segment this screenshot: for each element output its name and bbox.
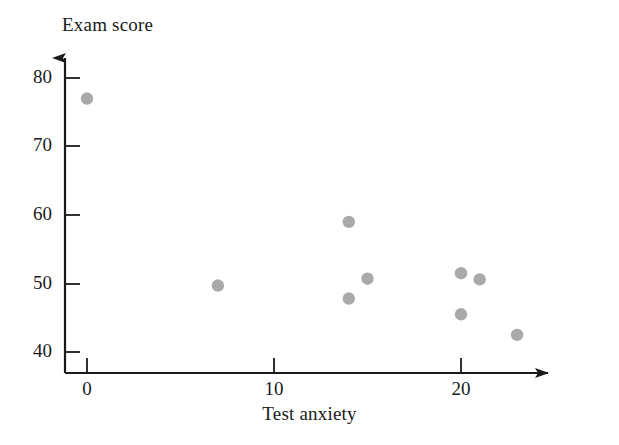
x-tick-label-10: 10: [254, 378, 294, 400]
data-point: [361, 273, 373, 285]
data-point: [455, 308, 467, 320]
x-axis-ticks: [87, 358, 461, 373]
axis-lines: [65, 58, 548, 373]
y-tick-label-50: 50: [6, 272, 52, 294]
data-point: [455, 267, 467, 279]
data-point: [212, 279, 224, 291]
y-tick-label-40: 40: [6, 340, 52, 362]
y-tick-label-60: 60: [6, 203, 52, 225]
x-tick-label-20: 20: [441, 378, 481, 400]
data-point: [511, 329, 523, 341]
data-point: [343, 292, 355, 304]
y-tick-label-70: 70: [6, 134, 52, 156]
data-point-group: [81, 92, 524, 341]
data-point: [474, 273, 486, 285]
x-tick-label-0: 0: [67, 378, 107, 400]
y-axis-ticks: [65, 78, 80, 352]
data-point: [343, 216, 355, 228]
y-tick-label-80: 80: [6, 66, 52, 88]
x-axis-title: Test anxiety: [0, 403, 619, 425]
scatter-plot-figure: Exam score Test anxiety 80 70 60 50 40 0…: [0, 0, 619, 445]
data-point: [81, 92, 93, 104]
y-axis-title: Exam score: [62, 14, 153, 36]
